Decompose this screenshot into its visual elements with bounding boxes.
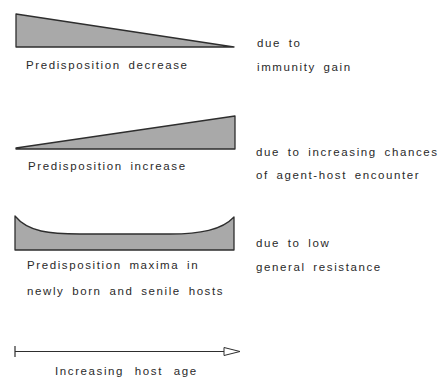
decrease-reason-line-2: immunity gain: [257, 60, 352, 74]
increase-label: Predisposition increase: [28, 159, 187, 173]
maxima-label-line-1: Predisposition maxima in: [27, 258, 199, 272]
arrowhead-icon: [224, 348, 240, 356]
maxima-reason-line-2: general resistance: [256, 260, 382, 274]
increase-reason-line-2: of agent-host encounter: [256, 168, 420, 182]
age-axis-arrow: [15, 346, 240, 357]
increase-reason-line-1: due to increasing chances: [256, 145, 439, 159]
u-shaped-band-shape: [15, 216, 234, 250]
decrease-reason-line-1: due to: [257, 36, 302, 50]
increase-wedge-shape: [16, 116, 235, 149]
maxima-label-line-2: newly born and senile hosts: [27, 284, 224, 298]
decrease-wedge-shape: [16, 14, 234, 47]
decrease-label: Predisposition decrease: [26, 58, 189, 72]
maxima-reason-line-1: due to low: [256, 236, 330, 250]
age-axis-label: Increasing host age: [55, 364, 198, 378]
